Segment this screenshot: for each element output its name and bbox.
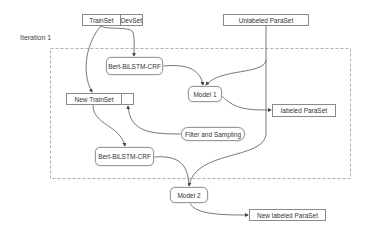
trainset-devset-box: TrainSet DevSet (82, 14, 143, 26)
bert-bilstm-crf-bottom: Bert-BiLSTM-CRF (95, 147, 154, 166)
new-labeled-paraset-box: New labeled ParaSet (249, 209, 326, 221)
unlabeled-paraset-box: Unlabeled ParaSet (223, 14, 309, 26)
bert-bilstm-crf-top: Bert-BiLSTM-CRF (106, 57, 163, 75)
labeled-paraset-box: labeled ParaSet (272, 104, 336, 117)
new-trainset-cell: New TrainSet (67, 94, 122, 104)
new-trainset-box: New TrainSet (66, 93, 134, 105)
filter-sampling-box: Filter and Sampling (181, 127, 245, 141)
trainset-cell: TrainSet (83, 15, 121, 25)
devset-cell: DevSet (121, 15, 142, 25)
model-2-box: Model 2 (170, 187, 208, 203)
model-1-box: Model 1 (188, 86, 222, 102)
iteration-label: Iteration 1 (20, 34, 51, 41)
new-trainset-extra-cell (122, 94, 133, 104)
